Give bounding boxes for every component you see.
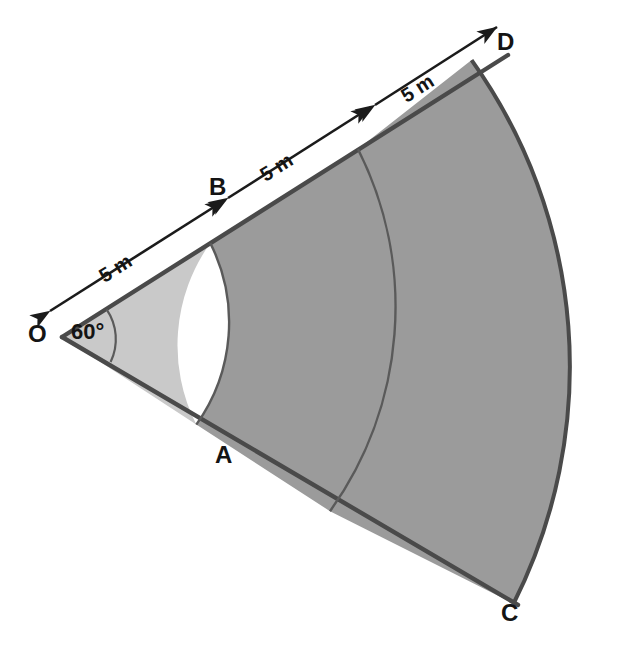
label-point-D: D [497,30,514,54]
label-angle-60: 60° [71,321,104,343]
label-point-O: O [28,322,47,346]
label-point-C: C [501,601,518,625]
label-point-A: A [215,443,232,467]
diagram-canvas: O B A D C 60° 5 m 5 m 5 m [0,0,622,671]
label-point-B: B [209,175,226,199]
